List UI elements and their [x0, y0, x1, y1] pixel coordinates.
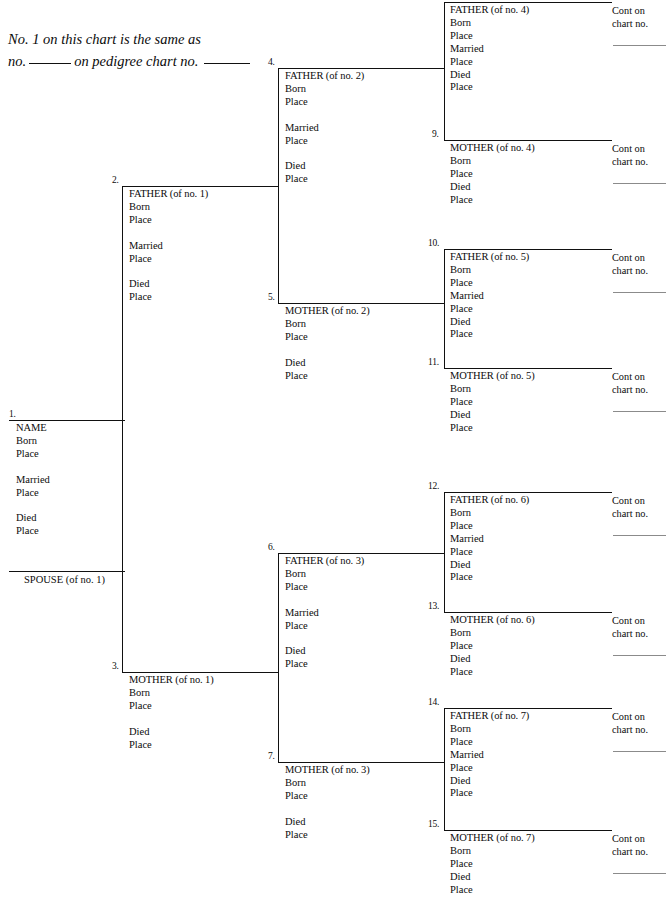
continuation-note: Cont onchart no. [612, 4, 648, 30]
spouse-rule [9, 571, 125, 572]
field-died[interactable]: Died [285, 357, 370, 370]
ancestor-number: 10. [428, 239, 439, 249]
field-place[interactable]: Place [450, 520, 529, 533]
continuation-chart-number-blank-field[interactable] [613, 183, 666, 184]
continuation-chart-number-blank-field[interactable] [613, 411, 666, 412]
field-born[interactable]: Born [450, 264, 529, 277]
field-place[interactable]: Place [450, 396, 535, 409]
continuation-chart-number-blank-field[interactable] [613, 873, 666, 874]
field-died[interactable]: Died [285, 645, 364, 658]
field-born[interactable]: Born [16, 435, 50, 448]
field-spacer [285, 147, 364, 160]
field-born[interactable]: Born [450, 155, 535, 168]
field-place[interactable]: Place [450, 884, 535, 897]
field-died[interactable]: Died [129, 726, 214, 739]
field-died[interactable]: Died [450, 871, 535, 884]
field-born[interactable]: Born [450, 723, 529, 736]
field-married[interactable]: Married [450, 749, 529, 762]
field-place[interactable]: Place [16, 525, 50, 538]
field-died[interactable]: Died [129, 278, 208, 291]
continuation-chart-number-blank-field[interactable] [613, 655, 666, 656]
field-born[interactable]: Born [129, 687, 214, 700]
field-place[interactable]: Place [450, 640, 535, 653]
field-spacer [129, 713, 214, 726]
field-place[interactable]: Place [450, 277, 529, 290]
person-title: MOTHER (of no. 6) [450, 614, 535, 627]
field-place[interactable]: Place [285, 173, 364, 186]
field-place[interactable]: Place [129, 291, 208, 304]
continuation-line-2: chart no. [612, 264, 648, 277]
person-fields: MOTHER (of no. 3)BornPlace DiedPlace [285, 764, 370, 841]
field-place[interactable]: Place [129, 214, 208, 227]
field-place[interactable]: Place [450, 30, 529, 43]
field-place[interactable]: Place [285, 370, 370, 383]
continuation-line-1: Cont on [612, 251, 648, 264]
pedigree-chart-number-blank-field[interactable] [204, 51, 250, 64]
field-place[interactable]: Place [450, 666, 535, 679]
field-place[interactable]: Place [285, 658, 364, 671]
continuation-chart-number-blank-field[interactable] [613, 292, 666, 293]
person-title: FATHER (of no. 4) [450, 4, 529, 17]
field-born[interactable]: Born [285, 777, 370, 790]
field-died[interactable]: Died [16, 512, 50, 525]
field-born[interactable]: Born [450, 383, 535, 396]
continuation-chart-number-blank-field[interactable] [613, 45, 666, 46]
field-born[interactable]: Born [129, 201, 208, 214]
field-place[interactable]: Place [450, 328, 529, 341]
field-born[interactable]: Born [450, 845, 535, 858]
field-place[interactable]: Place [450, 303, 529, 316]
field-place[interactable]: Place [285, 790, 370, 803]
field-place[interactable]: Place [450, 168, 535, 181]
field-married[interactable]: Married [129, 240, 208, 253]
field-place[interactable]: Place [285, 331, 370, 344]
ancestor-number: 1. [9, 410, 16, 420]
field-place[interactable]: Place [450, 858, 535, 871]
field-born[interactable]: Born [285, 568, 364, 581]
field-place[interactable]: Place [450, 81, 529, 94]
field-place[interactable]: Place [450, 422, 535, 435]
field-born[interactable]: Born [285, 318, 370, 331]
field-place[interactable]: Place [450, 194, 535, 207]
field-place[interactable]: Place [450, 56, 529, 69]
field-place[interactable]: Place [450, 546, 529, 559]
field-place[interactable]: Place [285, 581, 364, 594]
continuation-chart-number-blank-field[interactable] [613, 751, 666, 752]
field-spacer [129, 265, 208, 278]
field-died[interactable]: Died [285, 160, 364, 173]
field-spacer [285, 594, 364, 607]
field-born[interactable]: Born [450, 627, 535, 640]
continuation-chart-number-blank-field[interactable] [613, 535, 666, 536]
field-place[interactable]: Place [450, 571, 529, 584]
field-place[interactable]: Place [129, 739, 214, 752]
field-born[interactable]: Born [450, 17, 529, 30]
field-place[interactable]: Place [285, 620, 364, 633]
field-born[interactable]: Born [285, 83, 364, 96]
field-place[interactable]: Place [285, 829, 370, 842]
chart-number-blank-field[interactable] [29, 51, 71, 64]
field-place[interactable]: Place [129, 253, 208, 266]
field-died[interactable]: Died [450, 559, 529, 572]
field-place[interactable]: Place [450, 762, 529, 775]
field-place[interactable]: Place [285, 96, 364, 109]
gen3-trunk-bot [278, 553, 279, 762]
field-died[interactable]: Died [450, 181, 535, 194]
field-place[interactable]: Place [129, 700, 214, 713]
field-married[interactable]: Married [16, 474, 50, 487]
field-place[interactable]: Place [450, 787, 529, 800]
field-born[interactable]: Born [450, 507, 529, 520]
field-place[interactable]: Place [16, 487, 50, 500]
field-died[interactable]: Died [450, 775, 529, 788]
field-place[interactable]: Place [450, 736, 529, 749]
field-died[interactable]: Died [450, 409, 535, 422]
field-married[interactable]: Married [285, 122, 364, 135]
field-died[interactable]: Died [450, 69, 529, 82]
field-married[interactable]: Married [450, 43, 529, 56]
field-place[interactable]: Place [16, 448, 50, 461]
field-died[interactable]: Died [450, 316, 529, 329]
field-died[interactable]: Died [285, 816, 370, 829]
field-married[interactable]: Married [285, 607, 364, 620]
field-died[interactable]: Died [450, 653, 535, 666]
field-married[interactable]: Married [450, 533, 529, 546]
field-place[interactable]: Place [285, 135, 364, 148]
field-married[interactable]: Married [450, 290, 529, 303]
